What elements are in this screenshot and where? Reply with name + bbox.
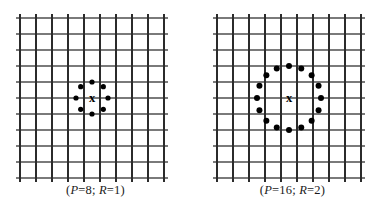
caption-p8-r1: (P=8; R=1) bbox=[8, 183, 183, 198]
grid-svg-p16-r2: x bbox=[205, 10, 373, 186]
neighbor-dot bbox=[309, 118, 315, 124]
neighbor-dot bbox=[89, 79, 94, 84]
neighbor-dot bbox=[318, 95, 324, 101]
neighbor-dot bbox=[263, 72, 269, 78]
caption-close-paren: ) bbox=[321, 183, 325, 197]
caption-p-value: 16 bbox=[279, 183, 292, 197]
neighbor-dot bbox=[78, 107, 83, 112]
grid-diagram-p16-r2: x bbox=[205, 10, 373, 186]
caption-r-symbol: R bbox=[299, 183, 307, 197]
caption-r-equals: = bbox=[107, 183, 114, 197]
caption-separator: ; bbox=[92, 183, 99, 197]
neighbor-dot bbox=[298, 125, 304, 131]
neighbor-dot bbox=[101, 84, 106, 89]
neighbor-dot bbox=[101, 107, 106, 112]
grid-diagram-p8-r1: x bbox=[8, 10, 176, 186]
center-marker-x: x bbox=[89, 91, 96, 105]
lbp-neighborhood-figure: x (P=8; R=1) bbox=[0, 0, 386, 216]
neighbor-dot bbox=[105, 95, 110, 100]
grid-svg-p8-r1: x bbox=[8, 10, 176, 186]
caption-p16-r2: (P=16; R=2) bbox=[205, 183, 380, 198]
neighbor-dot bbox=[298, 65, 304, 71]
neighbor-dot bbox=[309, 72, 315, 78]
neighbor-dot bbox=[256, 83, 262, 89]
neighbor-dot bbox=[286, 63, 292, 69]
neighbor-dot bbox=[263, 118, 269, 124]
neighbor-dot bbox=[89, 111, 94, 116]
caption-p-symbol: P bbox=[264, 183, 272, 197]
neighbor-dot bbox=[274, 125, 280, 131]
center-marker-x: x bbox=[286, 91, 293, 105]
neighbor-dot bbox=[316, 83, 322, 89]
neighbor-dot bbox=[316, 107, 322, 113]
neighbor-dot bbox=[73, 95, 78, 100]
neighbor-dot bbox=[274, 65, 280, 71]
caption-r-symbol: R bbox=[99, 183, 107, 197]
neighbor-dot bbox=[286, 127, 292, 133]
caption-p-equals: = bbox=[78, 183, 85, 197]
neighbor-dot bbox=[254, 95, 260, 101]
neighbor-dot bbox=[78, 84, 83, 89]
neighbor-dot bbox=[256, 107, 262, 113]
caption-close-paren: ) bbox=[121, 183, 125, 197]
